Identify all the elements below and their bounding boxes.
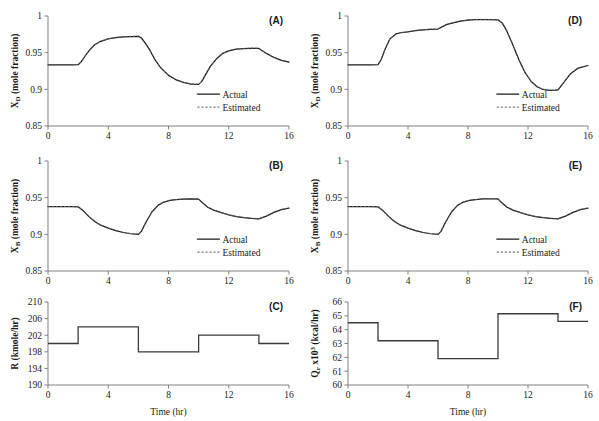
x-tick-label: 12 — [224, 390, 234, 400]
panel-label: (D) — [568, 15, 582, 26]
panel-f: 606162636465660481216Qr x103 (kcal/hr)(F… — [300, 290, 599, 421]
y-tick-label: 62 — [333, 353, 343, 363]
x-axis-ticks: 0481216 — [46, 126, 294, 141]
y-tick-label: 1 — [337, 11, 342, 21]
x-tick-label: 16 — [583, 131, 593, 141]
y-tick-label: 190 — [28, 380, 43, 390]
legend-label-estimated: Estimated — [222, 103, 260, 113]
y-tick-label: 194 — [28, 364, 43, 374]
legend-label-actual: Actual — [222, 235, 248, 245]
data-series-group — [48, 327, 289, 352]
x-tick-label: 16 — [583, 276, 593, 286]
series-actual — [348, 199, 588, 235]
panel-label: (E) — [569, 160, 582, 171]
step-series — [48, 327, 289, 352]
y-axis-title: XB (mole fraction) — [310, 179, 322, 253]
series-actual — [48, 36, 289, 84]
series-actual — [48, 199, 289, 234]
axes — [48, 302, 289, 385]
x-tick-label: 0 — [46, 390, 51, 400]
series-estimated — [348, 199, 588, 235]
x-tick-label: 8 — [166, 390, 171, 400]
y-tick-label: 64 — [333, 325, 343, 335]
legend: ActualEstimated — [197, 90, 260, 113]
x-tick-label: 0 — [346, 276, 351, 286]
legend-label-actual: Actual — [522, 235, 548, 245]
y-tick-label: 0.9 — [330, 230, 342, 240]
panel-label: (B) — [269, 160, 283, 171]
series-actual — [348, 20, 588, 91]
legend-label-actual: Actual — [522, 90, 548, 100]
series-estimated — [348, 19, 588, 90]
series-estimated — [48, 199, 289, 234]
y-tick-label: 0.85 — [25, 121, 42, 131]
y-tick-label: 198 — [28, 347, 43, 357]
y-tick-label: 0.85 — [25, 266, 42, 276]
legend: ActualEstimated — [497, 90, 560, 113]
x-tick-label: 8 — [166, 276, 171, 286]
x-tick-label: 0 — [46, 131, 51, 141]
x-tick-label: 4 — [406, 276, 411, 286]
legend-label-estimated: Estimated — [522, 103, 560, 113]
legend-label-estimated: Estimated — [222, 248, 260, 258]
x-tick-label: 12 — [523, 390, 533, 400]
panel-label: (F) — [569, 301, 582, 312]
y-tick-label: 210 — [28, 297, 43, 307]
figure-container: 0.850.90.9510481216XD (mole fraction)(A)… — [0, 0, 599, 421]
x-tick-label: 16 — [284, 390, 294, 400]
y-tick-label: 0.95 — [25, 193, 42, 203]
y-axis-ticks: 190194198202206210 — [28, 297, 48, 390]
y-axis-ticks: 60616263646566 — [333, 297, 349, 390]
x-tick-label: 8 — [166, 131, 171, 141]
y-axis-title: XD (mole fraction) — [310, 34, 322, 109]
y-tick-label: 1 — [37, 156, 42, 166]
y-tick-label: 0.85 — [325, 121, 342, 131]
x-tick-label: 4 — [106, 390, 111, 400]
panel-a: 0.850.90.9510481216XD (mole fraction)(A)… — [0, 0, 300, 145]
y-tick-label: 0.9 — [330, 85, 342, 95]
x-tick-label: 12 — [224, 131, 234, 141]
y-tick-label: 1 — [337, 156, 342, 166]
legend-label-estimated: Estimated — [522, 248, 560, 258]
y-tick-label: 0.9 — [30, 230, 42, 240]
legend: ActualEstimated — [497, 235, 560, 258]
y-axis-title: R (kmole/hr) — [10, 317, 21, 370]
x-tick-label: 0 — [346, 390, 351, 400]
series-estimated — [48, 36, 289, 84]
x-axis-ticks: 0481216 — [46, 271, 294, 286]
panel-c: 1901941982022062100481216R (kmole/hr)(C)… — [0, 290, 300, 421]
panel-d: 0.850.90.9510481216XD (mole fraction)(D)… — [300, 0, 599, 145]
y-axis-ticks: 0.850.90.951 — [25, 11, 48, 131]
x-axis-ticks: 0481216 — [346, 271, 593, 286]
data-series-group — [348, 314, 588, 359]
y-tick-label: 63 — [333, 339, 343, 349]
y-tick-label: 0.95 — [325, 48, 342, 58]
axes — [348, 302, 588, 385]
x-tick-label: 12 — [523, 276, 533, 286]
panel-e: 0.850.90.9510481216XB (mole fraction)(E)… — [300, 145, 599, 290]
y-axis-title: XD (mole fraction) — [10, 34, 22, 109]
x-axis-ticks: 0481216 — [346, 385, 593, 400]
y-tick-label: 65 — [333, 311, 343, 321]
x-tick-label: 4 — [106, 276, 111, 286]
y-tick-label: 0.9 — [30, 85, 42, 95]
y-tick-label: 206 — [28, 314, 43, 324]
x-tick-label: 16 — [284, 276, 294, 286]
x-tick-label: 8 — [466, 276, 471, 286]
y-tick-label: 0.95 — [25, 48, 42, 58]
x-tick-label: 16 — [284, 131, 294, 141]
x-tick-label: 4 — [406, 131, 411, 141]
x-axis-ticks: 0481216 — [46, 385, 294, 400]
x-tick-label: 16 — [583, 390, 593, 400]
x-tick-label: 0 — [46, 276, 51, 286]
x-tick-label: 12 — [523, 131, 533, 141]
y-tick-label: 60 — [333, 380, 343, 390]
x-axis-title: Time (hr) — [450, 407, 486, 418]
y-axis-title: Qr x103 (kcal/hr) — [309, 309, 322, 377]
x-axis-ticks: 0481216 — [346, 126, 593, 141]
y-axis-ticks: 0.850.90.951 — [325, 11, 348, 131]
y-axis-ticks: 0.850.90.951 — [325, 156, 348, 276]
x-tick-label: 4 — [106, 131, 111, 141]
data-series-group — [348, 199, 588, 235]
data-series-group — [48, 199, 289, 235]
